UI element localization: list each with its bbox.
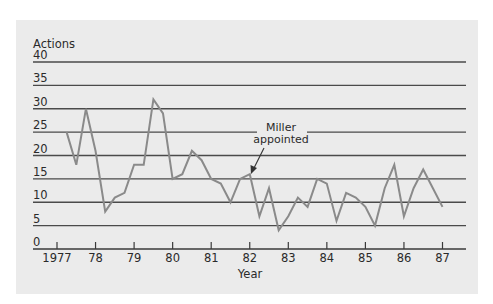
x-tick-label: 86 xyxy=(397,251,412,265)
x-tick-label: 78 xyxy=(88,251,103,265)
annotation-line2: appointed xyxy=(253,133,309,146)
x-tick-label: 83 xyxy=(281,251,296,265)
y-tick-label: 25 xyxy=(33,118,48,132)
y-tick-label: 30 xyxy=(33,95,48,109)
x-tick-label: 1977 xyxy=(42,251,71,265)
y-tick-label: 40 xyxy=(33,48,48,62)
y-tick-label: 0 xyxy=(33,235,40,249)
y-tick-label: 35 xyxy=(33,71,48,85)
x-tick-label: 80 xyxy=(165,251,180,265)
chart-canvas: Actions 0510152025303540 197778798081828… xyxy=(0,0,493,304)
y-tick-label: 15 xyxy=(33,165,48,179)
y-tick-label: 10 xyxy=(33,188,48,202)
x-tick-label: 87 xyxy=(435,251,450,265)
x-tick-label: 81 xyxy=(204,251,219,265)
y-tick-label: 5 xyxy=(33,212,40,226)
x-axis-label: Year xyxy=(237,267,263,281)
x-tick-label: 85 xyxy=(358,251,373,265)
x-tick-label: 84 xyxy=(320,251,335,265)
x-tick-label: 82 xyxy=(242,251,257,265)
x-tick-label: 79 xyxy=(127,251,142,265)
y-tick-label: 20 xyxy=(33,142,48,156)
